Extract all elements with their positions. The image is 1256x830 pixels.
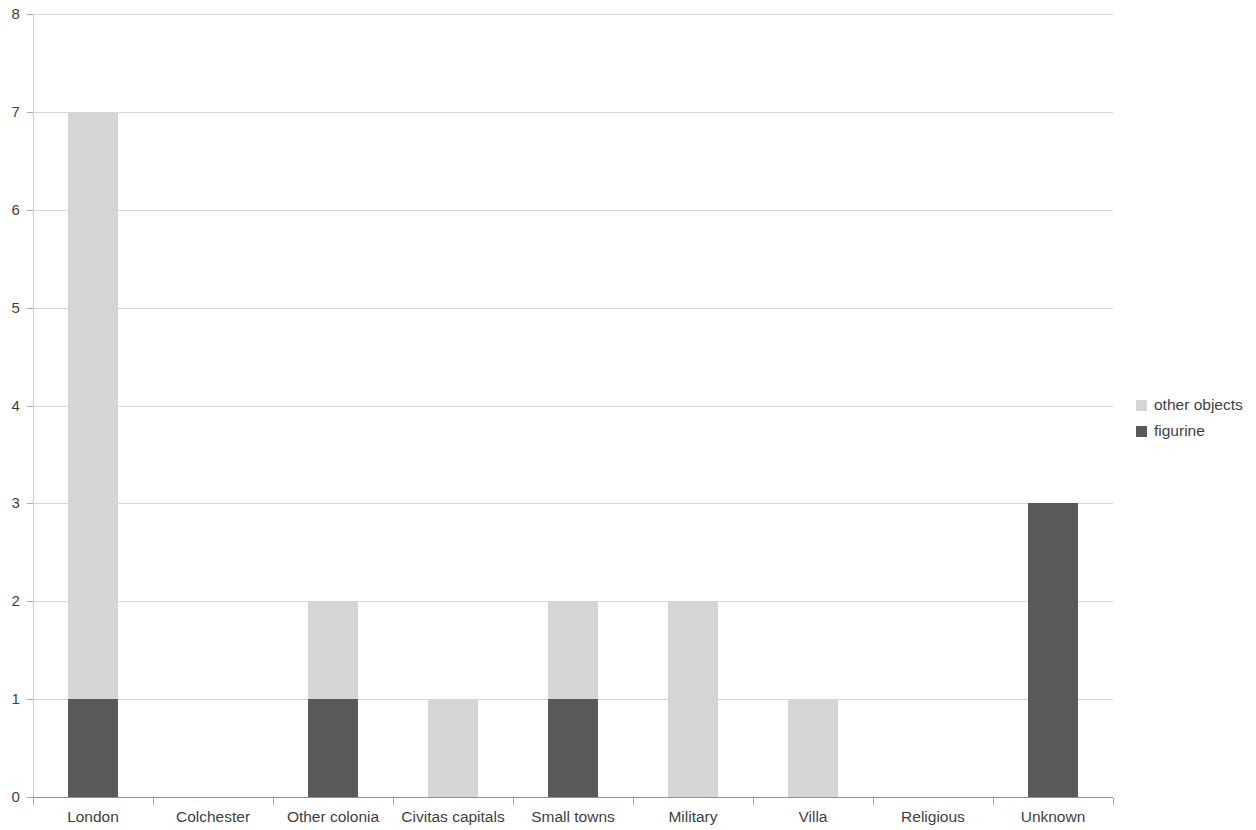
- y-tick-label-8: 8: [0, 6, 20, 21]
- legend-swatch-other-objects: [1136, 400, 1147, 411]
- x-tick-mark-6: [753, 798, 754, 805]
- x-tick-mark-0: [33, 798, 34, 805]
- bar-segment-other-objects[interactable]: [668, 601, 718, 797]
- x-tick-mark-1: [153, 798, 154, 805]
- bar-segment-other-objects[interactable]: [788, 699, 838, 797]
- x-tick-mark-3: [393, 798, 394, 805]
- y-tick-label-5: 5: [0, 300, 20, 315]
- legend-label-figurine: figurine: [1154, 422, 1205, 440]
- x-tick-mark-8: [993, 798, 994, 805]
- x-tick-label-civitas-capitals: Civitas capitals: [383, 808, 523, 826]
- x-axis-line: [33, 797, 1113, 798]
- x-tick-label-religious: Religious: [863, 808, 1003, 826]
- legend-item-figurine: figurine: [1136, 418, 1254, 444]
- plot-area: [33, 14, 1113, 797]
- bar-civitas-capitals[interactable]: [428, 699, 478, 797]
- y-tick-label-0: 0: [0, 789, 20, 804]
- bar-segment-figurine[interactable]: [1028, 503, 1078, 797]
- legend-label-other-objects: other objects: [1154, 396, 1243, 414]
- y-tick-label-4: 4: [0, 398, 20, 413]
- x-tick-mark-2: [273, 798, 274, 805]
- x-tick-label-small-towns: Small towns: [503, 808, 643, 826]
- x-tick-label-military: Military: [623, 808, 763, 826]
- y-tick-label-6: 6: [0, 202, 20, 217]
- x-tick-label-other-colonia: Other colonia: [263, 808, 403, 826]
- bar-london[interactable]: [68, 112, 118, 797]
- bar-segment-other-objects[interactable]: [308, 601, 358, 699]
- x-tick-mark-9: [1113, 798, 1114, 805]
- y-tick-label-2: 2: [0, 593, 20, 608]
- bar-segment-other-objects[interactable]: [428, 699, 478, 797]
- bar-small-towns[interactable]: [548, 601, 598, 797]
- bar-segment-figurine[interactable]: [548, 699, 598, 797]
- x-tick-mark-5: [633, 798, 634, 805]
- bar-segment-figurine[interactable]: [308, 699, 358, 797]
- y-tick-label-7: 7: [0, 104, 20, 119]
- bar-segment-figurine[interactable]: [68, 699, 118, 797]
- stacked-bar-chart: 012345678 LondonColchesterOther coloniaC…: [0, 0, 1256, 830]
- bar-segment-other-objects[interactable]: [68, 112, 118, 699]
- chart-legend: other objects figurine: [1136, 392, 1254, 444]
- y-tick-label-1: 1: [0, 691, 20, 706]
- bar-segment-other-objects[interactable]: [548, 601, 598, 699]
- x-tick-label-london: London: [23, 808, 163, 826]
- x-tick-mark-7: [873, 798, 874, 805]
- x-tick-label-colchester: Colchester: [143, 808, 283, 826]
- x-tick-label-villa: Villa: [743, 808, 883, 826]
- bar-military[interactable]: [668, 601, 718, 797]
- legend-swatch-figurine: [1136, 426, 1147, 437]
- legend-item-other-objects: other objects: [1136, 392, 1254, 418]
- x-tick-label-unknown: Unknown: [983, 808, 1123, 826]
- bar-villa[interactable]: [788, 699, 838, 797]
- bar-other-colonia[interactable]: [308, 601, 358, 797]
- x-tick-mark-4: [513, 798, 514, 805]
- y-tick-label-3: 3: [0, 495, 20, 510]
- bar-unknown[interactable]: [1028, 503, 1078, 797]
